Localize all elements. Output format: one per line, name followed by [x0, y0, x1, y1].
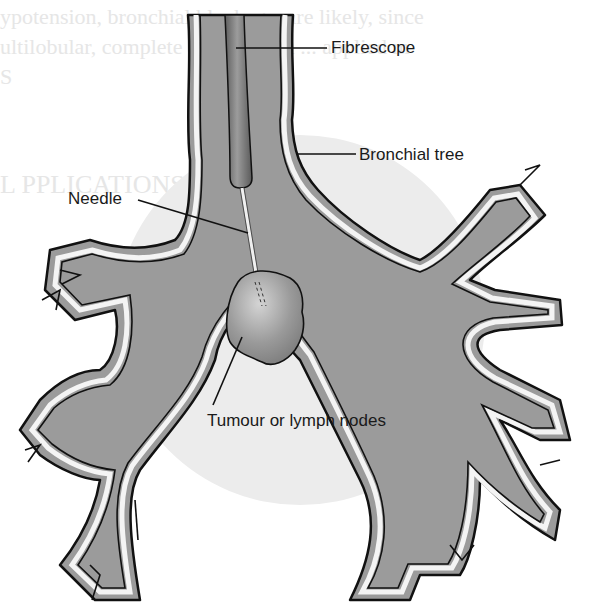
tumour-mass: [227, 271, 304, 364]
bronchial-tree-label: Bronchial tree: [359, 146, 464, 163]
branch-notch: [540, 460, 560, 465]
diagram-canvas: ypotension, bronchial blockage, are like…: [0, 0, 589, 616]
tumour-label: Tumour or lymph nodes: [207, 412, 386, 429]
needle-label: Needle: [68, 190, 122, 207]
bronchial-tree-illustration: [0, 0, 589, 616]
branch-notch: [135, 500, 138, 540]
fibrescope-label: Fibrescope: [331, 39, 415, 56]
branch-notch: [520, 165, 540, 185]
